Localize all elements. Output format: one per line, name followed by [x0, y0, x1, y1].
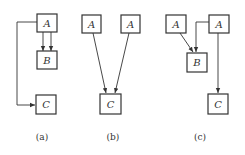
- node-a-C: C: [36, 95, 56, 114]
- node-label: B: [192, 57, 200, 68]
- node-label: C: [107, 99, 115, 110]
- caption-a: (a): [36, 132, 48, 142]
- node-label: C: [42, 99, 50, 110]
- node-b-A1: A: [82, 15, 101, 33]
- node-label: A: [214, 19, 222, 30]
- node-a-B: B: [37, 51, 57, 69]
- node-label: B: [42, 55, 50, 66]
- panel-a: A B C (a): [17, 14, 57, 142]
- edge-a-A-C: [17, 22, 37, 105]
- node-label: A: [87, 19, 95, 30]
- diagram-canvas: A B C (a) A A C (b): [0, 0, 245, 155]
- node-c-B: B: [187, 53, 207, 72]
- caption-b: (b): [107, 132, 120, 142]
- node-c-C: C: [208, 94, 228, 114]
- edge-c-A2-B: [196, 22, 209, 52]
- edge-b-A1-C: [93, 33, 106, 93]
- node-label: A: [126, 19, 134, 30]
- node-c-A1: A: [166, 15, 186, 33]
- node-c-A2: A: [209, 15, 229, 33]
- edge-b-A2-C: [115, 33, 129, 93]
- node-label: C: [214, 99, 222, 110]
- node-label: A: [42, 18, 50, 29]
- panel-b: A A C (b): [82, 15, 140, 142]
- edge-c-A1-B: [180, 33, 193, 52]
- node-b-C: C: [100, 94, 121, 114]
- node-b-A2: A: [121, 15, 140, 33]
- node-label: A: [171, 19, 179, 30]
- caption-c: (c): [194, 132, 206, 142]
- panel-c: A A B C (c): [166, 15, 229, 142]
- node-a-A: A: [37, 14, 57, 32]
